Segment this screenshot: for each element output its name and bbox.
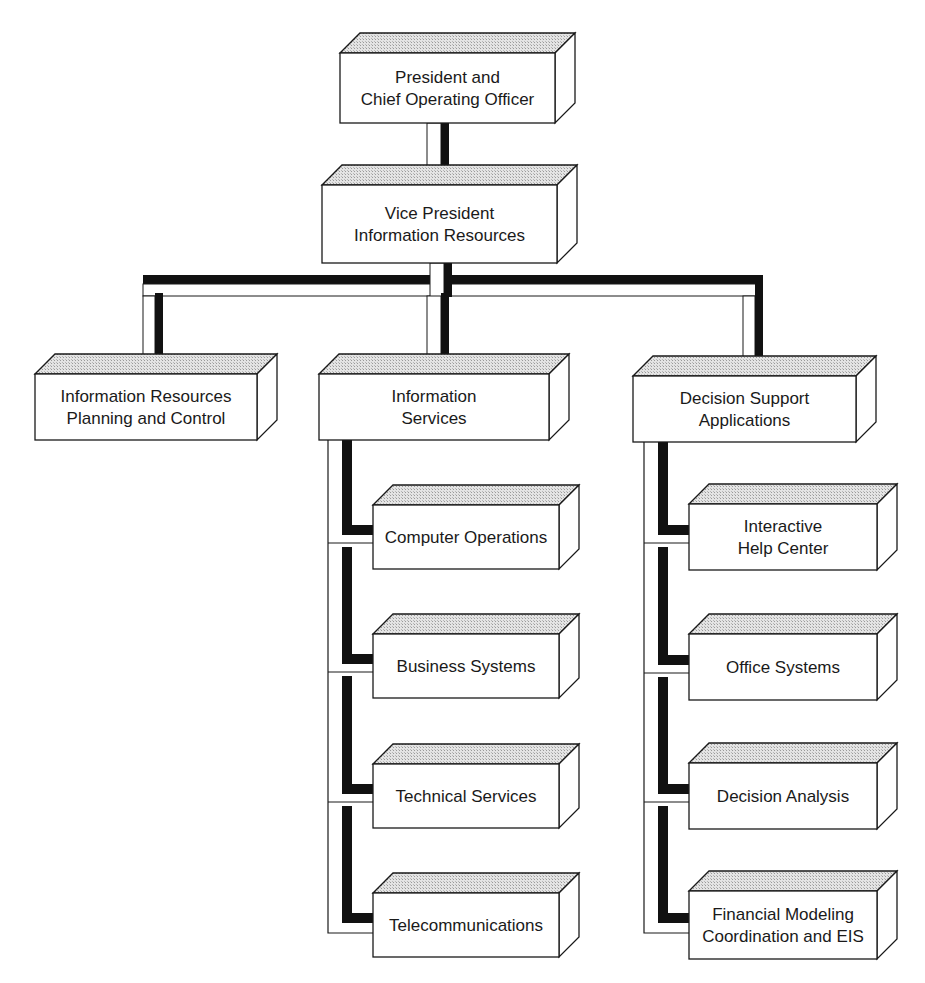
box-label: Vice President [385,204,495,223]
box-label: Computer Operations [385,528,548,547]
box-label: Decision Analysis [717,787,849,806]
box-label: Help Center [738,539,829,558]
box-front-face [322,185,557,263]
box-label: Telecommunications [389,916,543,935]
box-top-face [633,356,876,376]
org-chart: President andChief Operating OfficerVice… [0,0,925,983]
org-box-ir-planning-control: Information ResourcesPlanning and Contro… [35,354,277,440]
connector-shadow [441,293,449,356]
box-top-face [689,484,897,504]
connector-spine [342,440,352,535]
connector-spine [658,547,668,665]
connector-tick [342,654,373,664]
org-box-interactive-help-center: InteractiveHelp Center [689,484,897,570]
box-label: Information [391,387,476,406]
box-label: Business Systems [397,657,536,676]
box-top-face [373,744,579,764]
box-top-face [319,354,569,374]
connector-segment [143,296,155,356]
box-top-face [322,165,577,185]
box-top-face [373,485,579,505]
box-label: Coordination and EIS [702,927,864,946]
box-label: Services [401,409,466,428]
org-box-technical-services: Technical Services [373,744,579,828]
box-top-face [373,614,579,634]
box-top-face [689,614,897,634]
box-top-face [35,354,277,374]
connector-spine [342,547,352,664]
box-label: Planning and Control [67,409,226,428]
box-label: Financial Modeling [712,905,854,924]
org-box-president: President andChief Operating Officer [340,33,575,123]
connector-spine [658,806,668,923]
box-label: Information Resources [60,387,231,406]
connector-spine [658,677,668,794]
connector-segment [743,296,755,360]
connector-segment [430,263,444,297]
connector-tick [342,525,373,535]
box-label: Applications [699,411,791,430]
connector-spine [658,442,668,535]
connector-tick [658,655,689,665]
org-box-decision-analysis: Decision Analysis [689,743,897,829]
box-top-face [689,743,897,763]
connector-spine [342,806,352,923]
box-label: Information Resources [354,226,525,245]
org-boxes: President andChief Operating OfficerVice… [35,33,897,959]
box-front-face [689,891,877,959]
org-box-computer-operations: Computer Operations [373,485,579,569]
box-label: Technical Services [396,787,537,806]
org-box-information-services: InformationServices [319,354,569,440]
connector-tick [342,784,373,794]
org-box-telecommunications: Telecommunications [373,873,579,957]
connector-tick [342,913,373,923]
connector-shadow [155,293,163,356]
box-top-face [689,871,897,891]
connector-shadow [444,260,452,297]
org-box-business-systems: Business Systems [373,614,579,698]
box-front-face [689,504,877,570]
connector-segment [427,296,441,356]
connector-shadow [755,275,763,360]
connector-spine [342,676,352,794]
box-top-face [373,873,579,893]
box-front-face [340,53,555,123]
connector-tick [658,784,689,794]
box-front-face [35,374,257,440]
box-front-face [319,374,549,440]
box-label: President and [395,68,500,87]
box-top-face [340,33,575,53]
box-front-face [633,376,856,442]
box-label: Office Systems [726,658,840,677]
org-box-decision-support-apps: Decision SupportApplications [633,356,876,442]
box-label: Decision Support [680,389,810,408]
box-label: Interactive [744,517,822,536]
org-box-office-systems: Office Systems [689,614,897,700]
connector-tick [658,913,689,923]
box-label: Chief Operating Officer [361,90,535,109]
org-box-financial-modeling-eis: Financial ModelingCoordination and EIS [689,871,897,959]
connector-tick [658,525,689,535]
org-box-vp-info-resources: Vice PresidentInformation Resources [322,165,577,263]
